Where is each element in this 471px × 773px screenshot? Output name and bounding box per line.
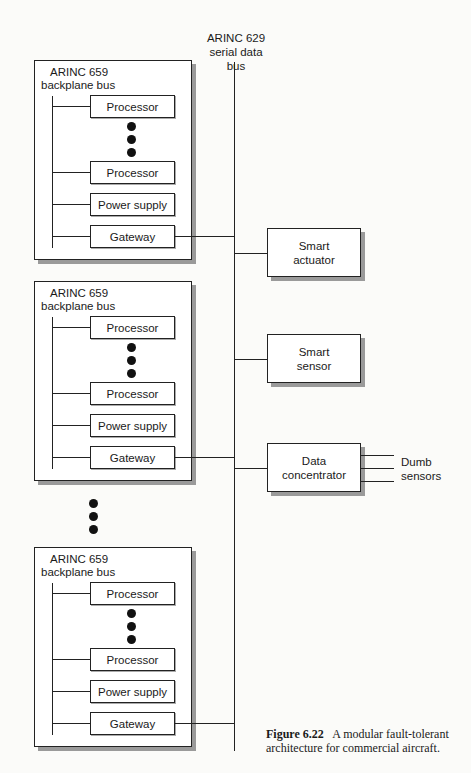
bus-stub <box>53 393 90 394</box>
device-label-line1: Smart <box>299 345 330 359</box>
power-supply-unit: Power supply <box>90 680 175 703</box>
smart-actuator: Smart actuator <box>267 228 361 277</box>
bus-stub <box>53 659 90 660</box>
backplane-bus-label: ARINC 659 backplane bus <box>41 287 115 313</box>
module-ellipsis-dot <box>89 512 98 521</box>
bus-stub <box>53 457 90 458</box>
unit-label: Gateway <box>110 452 155 464</box>
module-ellipsis-dot <box>89 525 98 534</box>
backplane-bus-label-line2: backplane bus <box>41 79 115 91</box>
dumb-sensors-label-line2: sensors <box>401 470 441 482</box>
dumb-sensor-line <box>361 455 394 456</box>
backplane-bus-label-line1: ARINC 659 <box>41 553 115 566</box>
backplane-bus-label: ARINC 659 backplane bus <box>41 66 115 92</box>
sensor-link <box>234 359 267 360</box>
bus-stub <box>53 236 90 237</box>
unit-label: Processor <box>107 654 159 666</box>
bus-stub <box>53 593 90 594</box>
ellipsis-dot <box>127 356 136 365</box>
processor-unit: Processor <box>90 382 175 405</box>
unit-label: Power supply <box>98 199 167 211</box>
dumb-sensors-label-line1: Dumb <box>401 456 432 468</box>
device-label-line2: sensor <box>297 359 332 373</box>
unit-label: Processor <box>107 588 159 600</box>
backplane-bus-label-line2: backplane bus <box>41 566 115 578</box>
bus-stub <box>53 327 90 328</box>
backplane-bus-label-line1: ARINC 659 <box>41 287 115 300</box>
device-label-line1: Data <box>302 454 326 468</box>
gateway-link <box>174 457 234 458</box>
gateway-unit: Gateway <box>90 446 175 469</box>
module-ellipsis-dot <box>89 499 98 508</box>
unit-label: Processor <box>107 322 159 334</box>
actuator-link <box>234 253 267 254</box>
unit-label: Processor <box>107 167 159 179</box>
processor-unit: Processor <box>90 316 175 339</box>
serial-data-bus-line <box>234 62 235 751</box>
unit-label: Processor <box>107 101 159 113</box>
gateway-unit: Gateway <box>90 712 175 735</box>
backplane-bus-label-line1: ARINC 659 <box>41 66 115 79</box>
ellipsis-dot <box>127 609 136 618</box>
figure-caption: Figure 6.22 A modular fault-tolerant arc… <box>266 727 471 755</box>
bus-stub <box>53 691 90 692</box>
gateway-link <box>174 236 234 237</box>
ellipsis-dot <box>127 135 136 144</box>
unit-label: Power supply <box>98 420 167 432</box>
power-supply-unit: Power supply <box>90 193 175 216</box>
dumb-sensor-line <box>361 468 394 469</box>
unit-label: Power supply <box>98 686 167 698</box>
gateway-unit: Gateway <box>90 225 175 248</box>
device-label-line2: actuator <box>293 253 335 267</box>
gateway-link <box>174 723 234 724</box>
bus-stub <box>53 204 90 205</box>
ellipsis-dot <box>127 622 136 631</box>
bus-stub <box>53 106 90 107</box>
bus-stub <box>53 172 90 173</box>
unit-label: Processor <box>107 388 159 400</box>
unit-label: Gateway <box>110 231 155 243</box>
figure-number: Figure 6.22 <box>266 727 324 741</box>
ellipsis-dot <box>127 635 136 644</box>
bus-stub <box>53 723 90 724</box>
serial-bus-label: ARINC 629 serial data bus <box>200 31 272 73</box>
processor-unit: Processor <box>90 582 175 605</box>
ellipsis-dot <box>127 369 136 378</box>
bus-stub <box>53 425 90 426</box>
processor-unit: Processor <box>90 95 175 118</box>
device-label-line2: concentrator <box>282 468 346 482</box>
ellipsis-dot <box>127 148 136 157</box>
processor-unit: Processor <box>90 648 175 671</box>
module-1: ARINC 659 backplane bus Processor Proces… <box>34 60 192 260</box>
smart-sensor: Smart sensor <box>267 334 361 383</box>
device-label-line1: Smart <box>299 239 330 253</box>
processor-unit: Processor <box>90 161 175 184</box>
ellipsis-dot <box>127 343 136 352</box>
unit-label: Gateway <box>110 718 155 730</box>
dumb-sensors-label: Dumb sensors <box>401 455 441 483</box>
data-concentrator: Data concentrator <box>267 443 361 492</box>
backplane-bus-label: ARINC 659 backplane bus <box>41 553 115 579</box>
backplane-bus-label-line2: backplane bus <box>41 300 115 312</box>
serial-bus-label-line1: ARINC 629 <box>207 32 265 44</box>
module-2: ARINC 659 backplane bus Processor Proces… <box>34 281 192 481</box>
serial-bus-label-line2: serial data bus <box>209 46 262 72</box>
dumb-sensor-line <box>361 481 394 482</box>
power-supply-unit: Power supply <box>90 414 175 437</box>
module-3: ARINC 659 backplane bus Processor Proces… <box>34 547 192 747</box>
concentrator-link <box>234 468 267 469</box>
ellipsis-dot <box>127 122 136 131</box>
